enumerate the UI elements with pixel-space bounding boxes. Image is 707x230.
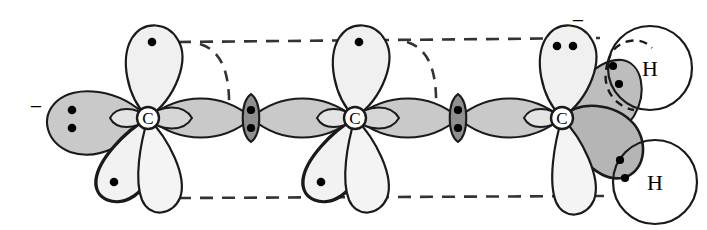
- bottom-dashed-line: [178, 196, 604, 198]
- c1-left-dot-1: [68, 106, 77, 115]
- carbon-atom-2: C: [303, 25, 399, 212]
- c2-up-lobe-dot: [355, 38, 364, 47]
- h2-dot-1: [616, 156, 624, 164]
- c3-label: C: [556, 109, 567, 128]
- h1-label: H: [642, 56, 658, 81]
- h2-dot-2: [621, 174, 629, 182]
- overlap-c1-c2-dot-1: [247, 106, 255, 114]
- c1-label: C: [142, 109, 153, 128]
- top-dashed-line: [178, 38, 600, 42]
- overlap-c2-c3-dot-1: [454, 106, 462, 114]
- h1-dot-1: [609, 62, 617, 70]
- c2-label: C: [349, 109, 360, 128]
- overlap-c2-c3-dot-2: [454, 124, 462, 132]
- orbital-diagram-figure: C C C H H − −: [0, 0, 707, 230]
- c1-down-left-dot: [110, 178, 119, 187]
- c3-up-dot-2: [569, 42, 578, 51]
- orbital-diagram-canvas: C C C H H − −: [0, 0, 707, 230]
- h2-label: H: [647, 170, 663, 195]
- overlap-c1-c2: [243, 94, 260, 142]
- overlap-c2-c3: [450, 94, 467, 142]
- c2-down-left-dot: [317, 178, 326, 187]
- c1-left-dot-2: [68, 124, 77, 133]
- minus-sign-right: −: [572, 8, 584, 33]
- c3-up-dot-1: [553, 42, 562, 51]
- overlap-c1-c2-dot-2: [247, 124, 255, 132]
- h1-dot-2: [615, 80, 623, 88]
- c1-up-lobe-dot: [148, 38, 157, 47]
- minus-sign-left: −: [30, 94, 42, 119]
